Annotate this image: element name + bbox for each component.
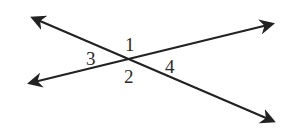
intersecting-lines-diagram: 1 2 3 4 <box>0 0 298 131</box>
angle-label-3: 3 <box>86 48 96 69</box>
diagram-canvas: 1 2 3 4 <box>0 0 298 131</box>
angle-label-1: 1 <box>125 34 135 55</box>
angle-label-2: 2 <box>124 66 134 87</box>
angle-label-4: 4 <box>165 56 175 77</box>
